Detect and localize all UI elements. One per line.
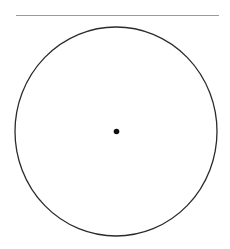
figure-canvas: [0, 0, 230, 249]
canvas-background: [0, 0, 230, 249]
geometry-figure: [0, 0, 230, 249]
center-point-dot: [114, 129, 120, 135]
